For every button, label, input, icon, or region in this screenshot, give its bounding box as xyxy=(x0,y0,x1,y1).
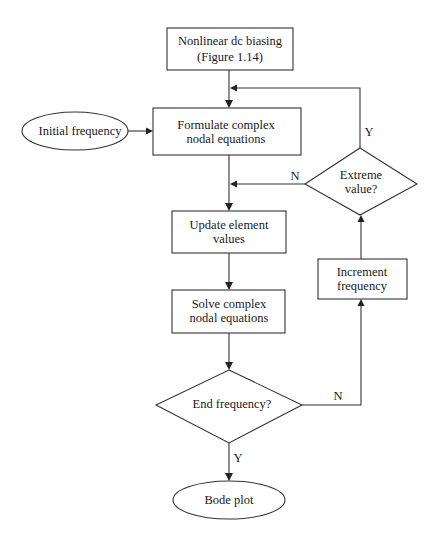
node-solve: Solve complex nodal equations xyxy=(172,290,285,333)
node-increment: Increment frequency xyxy=(318,259,407,299)
arrowhead-down-icon xyxy=(225,473,233,481)
arrowhead-down-icon xyxy=(225,203,233,211)
node-update: Update element values xyxy=(172,211,286,253)
arrowhead-down-icon xyxy=(225,362,233,370)
node-label: frequency xyxy=(337,279,388,293)
node-dc-biasing: Nonlinear dc biasing (Figure 1.14) xyxy=(167,28,293,70)
edge-label-yes: Y xyxy=(364,125,373,139)
arrowhead-right-icon xyxy=(146,128,153,135)
node-label: Solve complex xyxy=(192,297,267,311)
node-label: nodal equations xyxy=(187,132,266,146)
node-label: End frequency? xyxy=(193,397,272,411)
edge-label-no: N xyxy=(333,389,342,403)
node-label: Increment xyxy=(337,265,388,279)
node-label: Initial frequency xyxy=(39,124,123,138)
node-bode-plot: Bode plot xyxy=(173,481,285,519)
edge-end-no xyxy=(302,301,361,405)
arrowhead-up-icon xyxy=(358,215,365,222)
edge-label-yes: Y xyxy=(233,451,242,465)
node-label: Extreme xyxy=(340,168,383,182)
node-label: Bode plot xyxy=(205,493,254,507)
node-label: Formulate complex xyxy=(177,118,275,132)
flowchart: Nonlinear dc biasing (Figure 1.14) Initi… xyxy=(0,0,437,538)
arrowhead-left-icon xyxy=(230,181,237,188)
arrowhead-up-icon xyxy=(358,299,365,306)
node-label: Nonlinear dc biasing xyxy=(178,34,283,48)
node-label: value? xyxy=(345,182,378,196)
arrowhead-down-icon xyxy=(225,100,233,108)
node-label: values xyxy=(213,232,245,246)
arrowhead-down-icon xyxy=(225,282,233,290)
node-label: Update element xyxy=(190,218,269,232)
edge-label-no: N xyxy=(290,169,299,183)
node-label: (Figure 1.14) xyxy=(197,50,263,64)
node-initial-frequency: Initial frequency xyxy=(22,112,128,150)
node-end-frequency: End frequency? xyxy=(156,370,302,443)
node-extreme-value: Extreme value? xyxy=(305,148,417,215)
node-label: nodal equations xyxy=(190,311,269,325)
arrowhead-left-icon xyxy=(230,85,237,92)
node-formulate: Formulate complex nodal equations xyxy=(153,108,301,155)
